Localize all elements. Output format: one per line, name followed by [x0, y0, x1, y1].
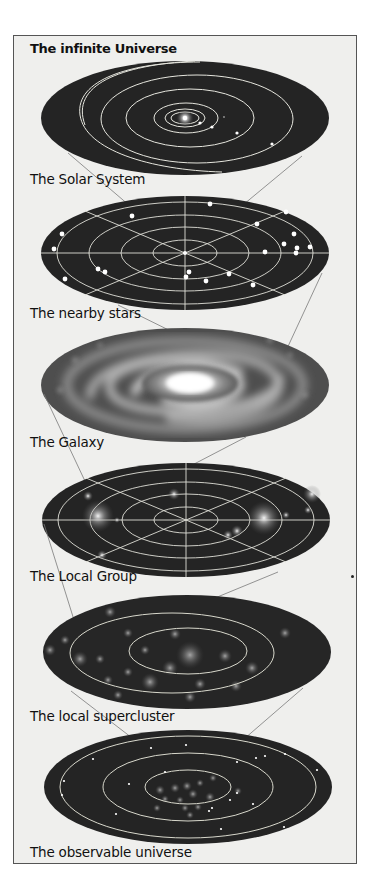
panel-label-solar-system: The Solar System: [30, 171, 145, 187]
panel-label-local-group: The Local Group: [30, 568, 137, 584]
panel-label-observable-universe: The observable universe: [30, 844, 192, 860]
panel-label-local-supercluster: The local supercluster: [30, 708, 174, 724]
figure-title: The infinite Universe: [30, 41, 177, 56]
local-supercluster-disc: [43, 595, 331, 709]
solar-system-disc: [41, 61, 329, 175]
stray-mark: [351, 575, 354, 578]
panel-label-galaxy: The Galaxy: [30, 434, 104, 450]
observable-universe-disc: [44, 730, 332, 844]
local-group-disc: [42, 463, 330, 577]
nearby-stars-disc: [41, 196, 329, 310]
panel-label-nearby-stars: The nearby stars: [30, 305, 141, 321]
galaxy-disc: [41, 328, 329, 442]
